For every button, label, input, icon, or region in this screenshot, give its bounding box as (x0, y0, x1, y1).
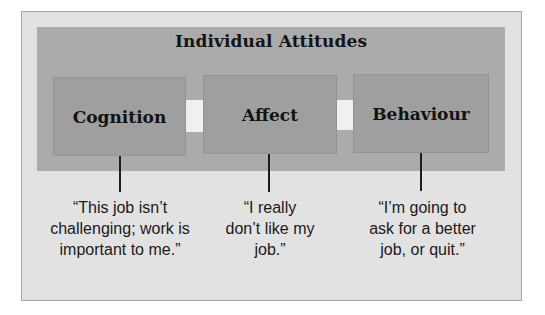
quote-line: challenging; work is (40, 218, 200, 239)
quote-line: important to me.” (40, 239, 200, 260)
quote-line: job, or quit.” (345, 239, 500, 260)
stage-box-behaviour: Behaviour (353, 74, 489, 153)
stage-box-affect: Affect (203, 75, 337, 154)
diagram-title: Individual Attitudes (37, 31, 505, 51)
stage-box-cognition: Cognition (53, 77, 186, 156)
connector-line-behaviour (420, 153, 422, 191)
quote-affect: “I really don’t like my job.” (205, 197, 335, 260)
quote-line: don’t like my (205, 218, 335, 239)
quote-behaviour: “I’m going to ask for a better job, or q… (345, 197, 500, 260)
connector-line-affect (268, 154, 270, 192)
quote-line: job.” (205, 239, 335, 260)
stage-label-behaviour: Behaviour (372, 104, 470, 124)
stage-label-affect: Affect (242, 105, 298, 125)
quote-line: “This job isn’t (40, 197, 200, 218)
quote-line: “I really (205, 197, 335, 218)
quote-cognition: “This job isn’t challenging; work is imp… (40, 197, 200, 260)
connector-line-cognition (119, 156, 121, 192)
quote-line: ask for a better (345, 218, 500, 239)
stage-label-cognition: Cognition (73, 107, 167, 127)
quote-line: “I’m going to (345, 197, 500, 218)
